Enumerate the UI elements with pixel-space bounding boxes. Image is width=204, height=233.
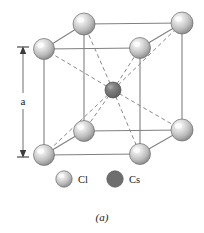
atom-front-top-right [130, 38, 151, 59]
edge-front-bottom [44, 154, 140, 155]
bond-to-back-top-right [113, 23, 182, 90]
figure-caption: (a) [96, 211, 109, 224]
legend-sphere-icon-cl [56, 171, 72, 187]
legend-label-cl: Cl [78, 174, 88, 185]
edge-back-top [84, 23, 182, 24]
atom-back-bottom-left [74, 121, 95, 142]
atom-body-center-cesium [105, 82, 121, 98]
dimension-indicator: a [15, 46, 31, 158]
legend: Cl Cs [56, 171, 140, 187]
bond-to-front-top-left [44, 49, 113, 90]
edge-front-top [44, 48, 140, 49]
legend-item-cl: Cl [56, 171, 88, 187]
bond-to-back-bottom-right [113, 90, 182, 130]
atom-front-top-left [34, 39, 55, 60]
dimension-label: a [21, 95, 26, 107]
atom-front-bottom-left [34, 145, 55, 166]
cscl-unit-cell-diagram: a [0, 0, 204, 233]
atoms-back [73, 12, 193, 142]
legend-label-cs: Cs [129, 174, 140, 185]
atom-back-bottom-right [171, 119, 193, 141]
atom-back-top-right [171, 12, 193, 34]
atom-front-bottom-right [130, 144, 151, 165]
figure-container: a [0, 0, 204, 233]
edge-back-bottom [84, 130, 182, 131]
atom-back-top-left [73, 13, 95, 35]
legend-sphere-icon-cs [107, 171, 123, 187]
legend-item-cs: Cs [107, 171, 140, 187]
